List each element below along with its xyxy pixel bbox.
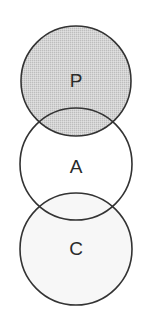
- circle-c-label: C: [56, 239, 96, 259]
- circle-a-label: A: [56, 157, 96, 177]
- circle-p-label: P: [56, 71, 96, 91]
- venn-diagram: P A C: [0, 0, 152, 329]
